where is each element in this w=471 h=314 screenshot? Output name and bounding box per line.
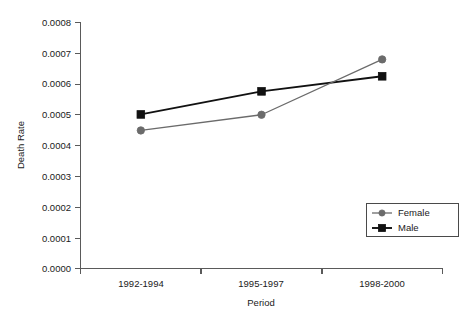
y-tick-label: 0.0004 bbox=[42, 140, 71, 151]
data-point bbox=[378, 56, 385, 63]
data-point bbox=[258, 111, 265, 118]
y-axis-title: Death Rate bbox=[15, 121, 26, 169]
data-point bbox=[137, 111, 145, 119]
x-tick-label: 1998-2000 bbox=[359, 278, 404, 289]
square-marker-icon bbox=[379, 225, 386, 232]
y-tick-label: 0.0001 bbox=[42, 233, 71, 244]
x-tick-label: 1995-1997 bbox=[238, 278, 283, 289]
x-tick-label: 1992-1994 bbox=[118, 278, 163, 289]
legend-label-female: Female bbox=[398, 207, 430, 218]
y-tick-label: 0.0006 bbox=[42, 78, 71, 89]
circle-marker-icon bbox=[379, 210, 385, 216]
legend-label-male: Male bbox=[398, 222, 419, 233]
x-axis-title: Period bbox=[247, 297, 274, 308]
y-tick-label: 0.0003 bbox=[42, 171, 71, 182]
chart-container: 0.0008 0.0007 0.0006 0.0005 0.0004 0.000… bbox=[0, 0, 471, 314]
y-tick-label: 0.0000 bbox=[42, 263, 71, 274]
y-tick-label: 0.0002 bbox=[42, 202, 71, 213]
data-point bbox=[258, 88, 266, 96]
x-axis-labels: 1992-1994 1995-1997 1998-2000 bbox=[118, 278, 404, 289]
data-point bbox=[137, 127, 144, 134]
y-tick-label: 0.0008 bbox=[42, 17, 71, 28]
y-tick-label: 0.0005 bbox=[42, 109, 71, 120]
chart-legend[interactable]: Female Male bbox=[367, 204, 459, 237]
line-chart: 0.0008 0.0007 0.0006 0.0005 0.0004 0.000… bbox=[0, 0, 471, 314]
data-point bbox=[378, 73, 386, 81]
y-tick-label: 0.0007 bbox=[42, 48, 71, 59]
